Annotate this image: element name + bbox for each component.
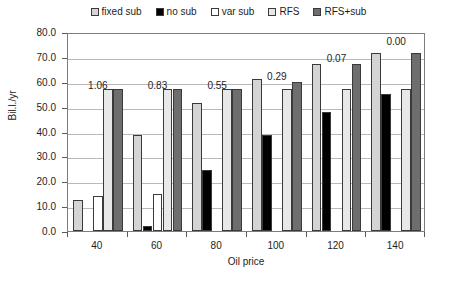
y-axis-title: Bil.l./yr (7, 61, 18, 151)
bar (173, 89, 183, 231)
legend-item-label: fixed sub (102, 7, 142, 17)
plot-area: 1.060.830.550.290.070.00 (67, 33, 425, 232)
y-tick-label: 50.0 (37, 103, 56, 113)
bar (163, 89, 173, 231)
x-tick-label: 140 (387, 240, 404, 251)
x-tick-label: 100 (267, 240, 284, 251)
x-tick-mark (246, 232, 247, 237)
legend-item-rfs[interactable]: RFS (268, 7, 299, 17)
bar (133, 135, 143, 231)
bar-value-annotation: 0.83 (148, 81, 167, 91)
legend-item-fixed-sub[interactable]: fixed sub (91, 7, 142, 17)
chart-legend: fixed subno subvar subRFSRFS+sub (0, 7, 457, 17)
bar (113, 89, 123, 231)
y-tick-label: 0.0 (42, 227, 56, 237)
bar-value-annotation: 1.06 (88, 81, 107, 91)
y-tick-label: 30.0 (37, 152, 56, 162)
bar (202, 170, 212, 231)
bar-value-annotation: 0.29 (267, 72, 286, 82)
y-tick-label: 80.0 (37, 28, 56, 38)
bar-value-annotation: 0.00 (386, 37, 405, 47)
bar (232, 89, 242, 231)
legend-item-label: RFS (279, 7, 299, 17)
x-tick-mark (365, 232, 366, 237)
bar (153, 194, 163, 231)
bar (292, 82, 302, 231)
x-tick-mark (127, 232, 128, 237)
y-tick-label: 20.0 (37, 177, 56, 187)
y-tick-label: 60.0 (37, 78, 56, 88)
x-tick-label: 40 (91, 240, 102, 251)
x-tick-label: 60 (151, 240, 162, 251)
bar (192, 103, 202, 231)
bar (143, 226, 153, 231)
legend-swatch-icon (313, 8, 321, 16)
bar (252, 79, 262, 231)
y-tick-label: 10.0 (37, 202, 56, 212)
x-tick-mark (306, 232, 307, 237)
x-tick-mark (186, 232, 187, 237)
bar-value-annotation: 0.55 (207, 81, 226, 91)
bar (222, 89, 232, 231)
legend-swatch-icon (91, 8, 99, 16)
x-tick-mark (67, 232, 68, 237)
bar (411, 53, 421, 231)
legend-swatch-icon (268, 8, 276, 16)
bar (322, 112, 332, 231)
bar (262, 135, 272, 231)
bar (93, 196, 103, 231)
x-tick-label: 120 (327, 240, 344, 251)
legend-item-var-sub[interactable]: var sub (211, 7, 255, 17)
y-tick-label: 40.0 (37, 128, 56, 138)
legend-swatch-icon (211, 8, 219, 16)
legend-item-rfs-sub[interactable]: RFS+sub (313, 7, 366, 17)
bar (103, 89, 113, 231)
legend-item-label: no sub (167, 7, 197, 17)
x-tick-label: 80 (211, 240, 222, 251)
legend-item-label: RFS+sub (324, 7, 366, 17)
y-tick-label: 70.0 (37, 53, 56, 63)
bar (381, 94, 391, 231)
x-axis-title: Oil price (67, 256, 425, 267)
x-tick-mark (424, 232, 425, 237)
legend-item-label: var sub (222, 7, 255, 17)
legend-item-no-sub[interactable]: no sub (156, 7, 197, 17)
bar (342, 89, 352, 231)
legend-swatch-icon (156, 8, 164, 16)
bar-chart: fixed subno subvar subRFSRFS+sub 0.010.0… (0, 0, 457, 284)
bar (73, 200, 83, 231)
bar (371, 53, 381, 231)
bar (282, 89, 292, 231)
bar-value-annotation: 0.07 (327, 54, 346, 64)
bar (312, 64, 322, 231)
bar (401, 89, 411, 231)
bar (352, 64, 362, 231)
